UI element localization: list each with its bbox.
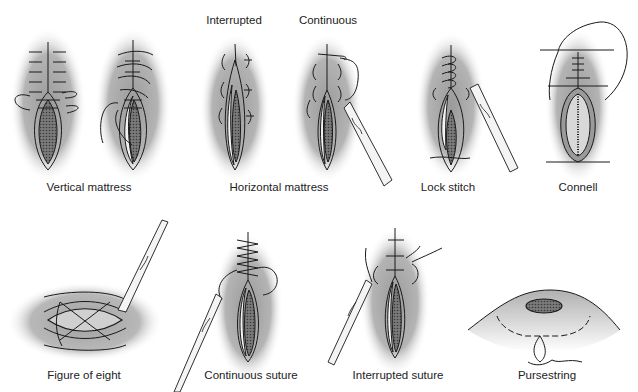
label-lock-stitch: Lock stitch xyxy=(421,181,475,194)
label-figure-of-eight: Figure of eight xyxy=(47,369,121,382)
label-connell: Connell xyxy=(559,181,598,194)
connell xyxy=(540,22,627,184)
interrupted-suture xyxy=(328,227,442,377)
label-pursestring: Pursestring xyxy=(518,369,576,382)
horizontal-mattress-continuous xyxy=(292,33,392,186)
vertical-mattress-b xyxy=(95,27,171,183)
label-interrupted: Interrupted xyxy=(206,14,262,27)
label-continuous-suture: Continuous suture xyxy=(204,369,297,382)
label-continuous: Continuous xyxy=(299,14,357,27)
continuous-suture xyxy=(174,232,283,392)
label-horizontal-mattress: Horizontal mattress xyxy=(229,181,328,194)
horizontal-mattress-interrupted xyxy=(200,33,270,183)
pursestring xyxy=(468,290,620,365)
vertical-mattress-a xyxy=(10,27,86,183)
label-vertical-mattress: Vertical mattress xyxy=(47,181,132,194)
label-interrupted-suture: Interrupted suture xyxy=(353,369,444,382)
suture-techniques-illustration xyxy=(0,0,638,392)
lock-stitch xyxy=(416,31,518,181)
figure-of-eight xyxy=(7,220,168,362)
